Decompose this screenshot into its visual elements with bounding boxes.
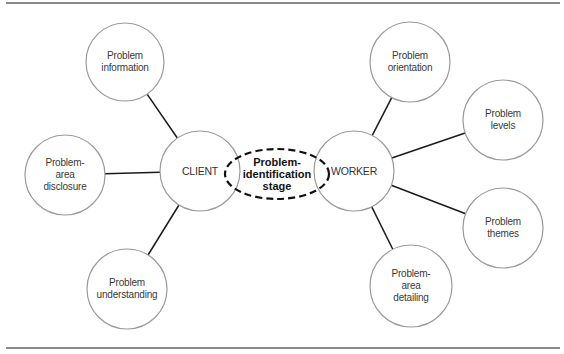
connector-problem-themes (391, 185, 465, 213)
connector-problem-orientation (372, 98, 391, 136)
connector-problem-levels (392, 133, 465, 158)
node-label-problem-themes: Problem themes (485, 216, 521, 240)
node-label-problem-orientation: Problem orientation (388, 50, 433, 74)
node-label-problem-understanding: Problem understanding (97, 277, 158, 301)
connector-problem-information (147, 94, 177, 138)
node-label-problem-area-disclosure: Problem- area disclosure (43, 157, 86, 193)
connector-problem-understanding (148, 205, 179, 255)
node-label-problem-levels: Problem levels (485, 108, 521, 132)
node-label-problem-area-detailing: Problem- area detailing (392, 268, 431, 304)
connector-problem-area-disclosure (105, 172, 160, 174)
connector-problem-area-detailing (372, 207, 393, 249)
node-label-problem-information: Problem information (101, 50, 148, 74)
center-stage-label: Problem- identification stage (243, 156, 311, 192)
client-hub-label: CLIENT (182, 165, 218, 177)
worker-hub-label: WORKER (331, 165, 377, 177)
